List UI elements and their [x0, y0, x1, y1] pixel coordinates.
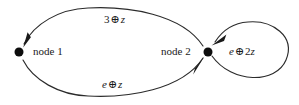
- graph-figure: node 1 node 2 3⊕z e⊕z e⊕2z: [0, 0, 299, 105]
- edge-label-variable: z: [251, 45, 255, 57]
- edge-label-variable: z: [121, 13, 125, 25]
- edge-label-node2-to-node1: 3⊕z: [104, 14, 125, 25]
- xor-operator-icon: ⊕: [107, 78, 118, 90]
- edge-label-node2-self-loop: e⊕2z: [229, 46, 255, 57]
- xor-operator-icon: ⊕: [234, 45, 245, 57]
- node-label-node2: node 2: [161, 46, 191, 57]
- node-dot-node1: [15, 48, 24, 57]
- edge-label-variable: z: [118, 78, 122, 90]
- node-label-node1: node 1: [33, 46, 63, 57]
- edge-label-node1-to-node2: e⊕z: [102, 79, 122, 90]
- xor-operator-icon: ⊕: [110, 13, 121, 25]
- node-dot-node2: [204, 48, 213, 57]
- edge-label-coefficient: 3: [104, 13, 110, 25]
